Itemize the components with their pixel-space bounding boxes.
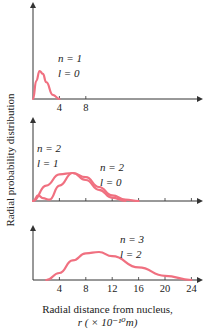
annotation-n: n = 1 bbox=[58, 52, 82, 64]
panel-1: 48n = 1l = 0 bbox=[33, 5, 200, 113]
panel-2: n = 2l = 1n = 2l = 0 bbox=[33, 120, 200, 201]
curve-n-3-l-2 bbox=[46, 252, 191, 280]
annotation-l: l = 0 bbox=[58, 67, 80, 79]
x-tick-label: 8 bbox=[83, 283, 88, 294]
annotation-l: l = 2 bbox=[120, 248, 142, 260]
x-axis-title-line1: Radial distance from nucleus, bbox=[0, 303, 215, 316]
x-axis-title-line2: r ( × 10⁻¹⁰m) bbox=[0, 316, 215, 329]
x-tick-label: 16 bbox=[133, 283, 144, 294]
panel-3: 4812162024n = 3l = 2 bbox=[33, 228, 200, 294]
x-tick-label: 20 bbox=[160, 283, 171, 294]
x-tick-label: 4 bbox=[57, 102, 63, 113]
curve-n-1-l-0 bbox=[33, 71, 59, 99]
x-tick-label: 8 bbox=[83, 102, 88, 113]
annotation-n: n = 3 bbox=[120, 233, 144, 245]
x-tick-label: 4 bbox=[57, 283, 63, 294]
annotation-l: l = 0 bbox=[100, 176, 122, 188]
annotation-n: n = 2 bbox=[37, 142, 61, 154]
x-tick-label: 24 bbox=[186, 283, 197, 294]
y-axis-label: Radial probability distribution bbox=[4, 93, 16, 227]
annotation-n: n = 2 bbox=[100, 161, 124, 173]
radial-probability-chart: 48n = 1l = 0n = 2l = 1n = 2l = 048121620… bbox=[0, 0, 215, 332]
x-tick-label: 12 bbox=[107, 283, 118, 294]
annotation-l: l = 1 bbox=[37, 157, 58, 169]
curve-n-2-l-0 bbox=[33, 173, 139, 201]
